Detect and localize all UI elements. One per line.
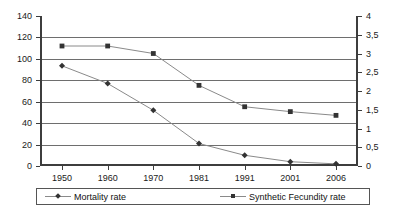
y-axis-left-tick-label: 120	[0, 33, 32, 42]
y-axis-left-tick	[36, 166, 40, 167]
data-point-square	[197, 83, 202, 88]
legend-label: Synthetic Fecundity rate	[249, 192, 346, 202]
x-axis-tick	[290, 166, 291, 170]
x-axis-tick	[153, 166, 154, 170]
plot-area	[40, 16, 358, 166]
chart-container: Mortality rate Synthetic Fecundity rate …	[0, 0, 398, 211]
series-line	[62, 66, 336, 164]
x-axis-tick	[108, 166, 109, 170]
data-point-square	[242, 104, 247, 109]
data-point-diamond	[242, 152, 248, 158]
data-point-diamond	[333, 161, 339, 167]
y-axis-right-tick-label: 1	[366, 124, 371, 133]
y-axis-right-tick-label: 2	[366, 87, 371, 96]
data-point-square	[151, 51, 156, 56]
legend-marker-diamond-icon	[45, 192, 71, 201]
x-axis-tick-label: 1991	[235, 174, 255, 183]
series-1	[59, 63, 339, 167]
y-axis-left-tick-label: 0	[0, 162, 32, 171]
data-point-square	[334, 113, 339, 118]
chart-legend: Mortality rate Synthetic Fecundity rate	[36, 188, 370, 205]
x-axis-tick-label: 1960	[98, 174, 118, 183]
y-axis-right-tick-label: 3	[366, 49, 371, 58]
y-axis-right-tick	[358, 166, 362, 167]
series-layer	[40, 16, 358, 166]
x-axis-tick-label: 2006	[326, 174, 346, 183]
series-line	[62, 46, 336, 115]
y-axis-left-tick-label: 20	[0, 140, 32, 149]
y-axis-right-tick-label: 2,5	[366, 68, 379, 77]
data-point-square	[60, 44, 65, 49]
data-point-square	[105, 44, 110, 49]
x-axis-tick-label: 2001	[280, 174, 300, 183]
x-axis-tick	[245, 166, 246, 170]
x-axis-tick-label: 1981	[189, 174, 209, 183]
y-axis-right-tick	[358, 72, 362, 73]
y-axis-right-tick	[358, 54, 362, 55]
y-axis-right-tick	[358, 110, 362, 111]
legend-label: Mortality rate	[74, 192, 126, 202]
y-axis-right-tick-label: 1,5	[366, 105, 379, 114]
y-axis-right-tick	[358, 35, 362, 36]
data-point-diamond	[287, 159, 293, 165]
legend-item-mortality-rate: Mortality rate	[45, 192, 126, 202]
y-axis-right-tick	[358, 147, 362, 148]
y-axis-right-tick	[358, 91, 362, 92]
data-point-diamond	[105, 81, 111, 87]
y-axis-right-tick	[358, 16, 362, 17]
data-point-diamond	[59, 63, 65, 69]
y-axis-left-tick-label: 100	[0, 54, 32, 63]
data-point-square	[288, 109, 293, 114]
y-axis-right-tick-label: 4	[366, 12, 371, 21]
y-axis-left-tick-label: 60	[0, 97, 32, 106]
y-axis-left-tick-label: 80	[0, 76, 32, 85]
y-axis-left-tick-label: 140	[0, 12, 32, 21]
y-axis-right-tick-label: 0	[366, 162, 371, 171]
legend-item-synthetic-fecundity-rate: Synthetic Fecundity rate	[220, 192, 346, 202]
y-axis-right-tick-label: 3,5	[366, 30, 379, 39]
y-axis-left-tick-label: 40	[0, 119, 32, 128]
legend-marker-square-icon	[220, 192, 246, 201]
y-axis-right-tick	[358, 129, 362, 130]
x-axis-tick-label: 1970	[143, 174, 163, 183]
x-axis-tick	[62, 166, 63, 170]
x-axis-tick-label: 1950	[52, 174, 72, 183]
x-axis-tick	[199, 166, 200, 170]
y-axis-right-tick-label: 0,5	[366, 143, 379, 152]
